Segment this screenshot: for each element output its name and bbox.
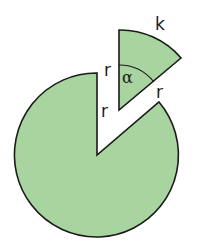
label-angle-alpha: α [122,70,133,86]
label-arc-k: k [155,16,165,33]
label-sector-radius-right: r [156,84,163,101]
diagram-canvas: k r α r r [0,0,198,246]
diagram-svg [0,0,198,246]
label-sector-radius-left: r [104,62,111,79]
label-circle-gap-radius: r [101,103,108,120]
large-circle-remainder [14,73,178,237]
